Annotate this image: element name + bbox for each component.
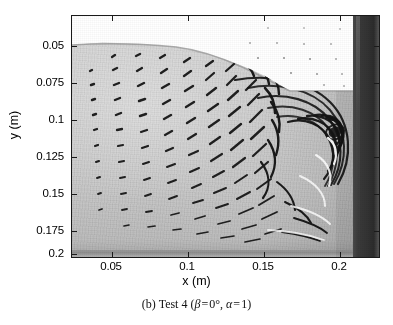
x-tick-label: 0.1 (179, 260, 194, 272)
x-axis-label: x (m) (0, 274, 393, 288)
y-tickmark-right (374, 194, 379, 195)
image-grain (72, 16, 379, 257)
x-tick-label: 0.2 (331, 260, 346, 272)
y-tickmark (72, 194, 77, 195)
alpha-equals: = (232, 297, 241, 311)
x-tickmark (188, 252, 189, 257)
x-tickmark-top (112, 16, 113, 21)
y-tickmark-right (374, 231, 379, 232)
y-tick-label: 0.1 (18, 113, 64, 125)
piv-streak-photograph (72, 16, 379, 257)
y-tickmark-right (374, 46, 379, 47)
y-tick-label: 0.075 (18, 76, 64, 88)
beta-equals: = (200, 297, 209, 311)
y-tickmark (72, 254, 77, 255)
y-tickmark (72, 231, 77, 232)
plot-area (71, 15, 380, 258)
y-tick-label: 0.175 (18, 224, 64, 236)
y-tickmark (72, 46, 77, 47)
x-tick-label: 0.05 (100, 260, 122, 272)
x-tickmark (112, 252, 113, 257)
y-tickmark (72, 157, 77, 158)
y-tickmark-right (374, 157, 379, 158)
y-tickmark-right (374, 83, 379, 84)
y-tickmark (72, 120, 77, 121)
y-tickmark (72, 83, 77, 84)
y-tick-label: 0.2 (18, 247, 64, 259)
x-tickmark (340, 252, 341, 257)
caption-suffix: ) (247, 297, 251, 311)
figure-caption: (b) Test 4 (β=0°, α=1) (0, 297, 393, 312)
caption-prefix: (b) Test 4 ( (142, 297, 195, 311)
figure-panel: 0.05 0.075 0.1 0.125 0.15 0.175 0.2 0.05… (0, 0, 393, 325)
y-tick-label: 0.125 (18, 150, 64, 162)
beta-value: 0°, (209, 297, 223, 311)
y-tick-label: 0.05 (18, 39, 64, 51)
x-tickmark (264, 252, 265, 257)
x-tick-label: 0.15 (252, 260, 274, 272)
y-tick-label: 0.15 (18, 187, 64, 199)
x-tickmark-top (264, 16, 265, 21)
y-axis-label: y (m) (7, 95, 21, 155)
y-tickmark-right (374, 120, 379, 121)
x-tickmark-top (188, 16, 189, 21)
x-tickmark-top (340, 16, 341, 21)
